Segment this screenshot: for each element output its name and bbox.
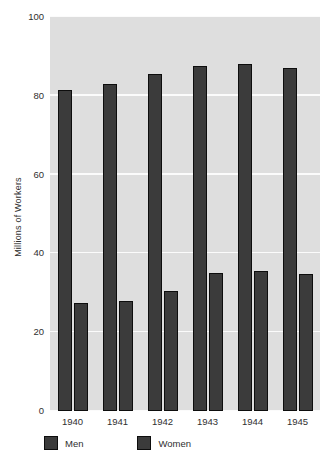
y-tick-label: 20 bbox=[4, 326, 44, 337]
bar-group bbox=[50, 17, 95, 411]
bar bbox=[299, 274, 313, 411]
bar-chart-figure: Millions of Workers 020406080100 1940194… bbox=[0, 0, 332, 471]
bar bbox=[164, 291, 178, 411]
bar bbox=[193, 66, 207, 411]
bar bbox=[74, 303, 88, 411]
y-tick-label: 0 bbox=[4, 405, 44, 416]
bar bbox=[238, 64, 252, 411]
bar bbox=[58, 90, 72, 411]
legend-swatch-men bbox=[44, 436, 58, 450]
y-tick-label: 100 bbox=[4, 11, 44, 22]
bar-group bbox=[185, 17, 230, 411]
bar bbox=[103, 84, 117, 411]
bar bbox=[148, 74, 162, 411]
y-tick-label: 80 bbox=[4, 90, 44, 101]
legend-label-men: Men bbox=[65, 438, 83, 449]
bars-layer bbox=[50, 17, 320, 411]
x-tick-label: 1942 bbox=[143, 416, 183, 427]
x-tick-label: 1941 bbox=[98, 416, 138, 427]
bar bbox=[283, 68, 297, 411]
y-tick-label: 60 bbox=[4, 169, 44, 180]
bar-group bbox=[140, 17, 185, 411]
legend-entry-men: Men bbox=[44, 436, 83, 450]
chart-legend: Men Women bbox=[44, 436, 191, 450]
legend-label-women: Women bbox=[158, 438, 191, 449]
x-tick-label: 1940 bbox=[53, 416, 93, 427]
x-tick-label: 1945 bbox=[278, 416, 318, 427]
legend-swatch-women bbox=[137, 436, 151, 450]
bar bbox=[119, 301, 133, 411]
bar-group bbox=[95, 17, 140, 411]
legend-entry-women: Women bbox=[137, 436, 191, 450]
bar bbox=[254, 271, 268, 411]
plot-area bbox=[50, 17, 320, 411]
x-tick-label: 1944 bbox=[233, 416, 273, 427]
bar-group bbox=[230, 17, 275, 411]
bar-group bbox=[275, 17, 320, 411]
bar bbox=[209, 273, 223, 411]
y-tick-label: 40 bbox=[4, 247, 44, 258]
x-tick-label: 1943 bbox=[188, 416, 228, 427]
